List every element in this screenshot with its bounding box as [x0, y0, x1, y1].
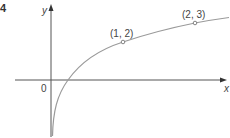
y-axis-arrow-icon	[49, 4, 54, 11]
point-1-2-label: (1, 2)	[110, 28, 133, 39]
x-axis-label: x	[223, 83, 230, 94]
graph: y x 0 (1, 2) (2, 3)	[0, 0, 230, 138]
log-curve	[53, 18, 230, 137]
x-axis-arrow-icon	[220, 78, 227, 83]
point-2-3-label: (2, 3)	[182, 9, 205, 20]
point-2-3	[193, 21, 197, 25]
origin-label: 0	[41, 83, 47, 94]
point-1-2	[121, 40, 125, 44]
y-axis-label: y	[41, 5, 48, 16]
